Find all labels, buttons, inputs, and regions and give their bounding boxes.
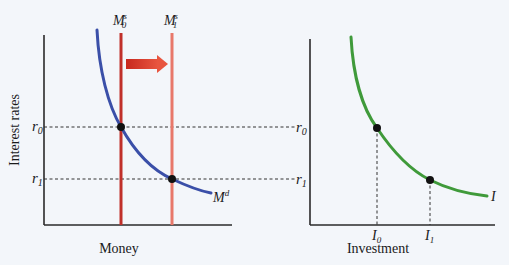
x-axis-label-money: Money bbox=[99, 241, 139, 256]
diagram-canvas: Interest rates Money r0 r1 Ms0 Ms1 Md r0… bbox=[0, 0, 509, 265]
r0-label-right: r0 bbox=[296, 119, 307, 137]
investment-panel: r0 r1 I0 I1 Investment I bbox=[296, 37, 497, 256]
money-supply-1-label: Ms1 bbox=[163, 12, 178, 30]
money-demand-curve bbox=[97, 30, 211, 193]
money-demand-label: Md bbox=[212, 188, 230, 205]
equilibrium-point-r1 bbox=[168, 175, 176, 183]
y-axis-label: Interest rates bbox=[7, 94, 22, 166]
r0-label-left: r0 bbox=[32, 118, 43, 136]
money-supply-0-label: Ms0 bbox=[112, 12, 127, 30]
investment-curve-label: I bbox=[490, 189, 497, 204]
investment-point-i0 bbox=[373, 124, 381, 132]
r1-label-right: r1 bbox=[296, 171, 307, 189]
shift-right-arrow-icon bbox=[126, 55, 168, 73]
money-market-panel: Interest rates Money r0 r1 Ms0 Ms1 Md bbox=[7, 12, 296, 256]
i1-label: I1 bbox=[424, 228, 434, 245]
r1-label-left: r1 bbox=[32, 170, 43, 188]
investment-demand-curve bbox=[351, 37, 487, 196]
equilibrium-point-r0 bbox=[117, 123, 125, 131]
x-axis-label-investment: Investment bbox=[347, 241, 409, 256]
investment-point-i1 bbox=[426, 176, 434, 184]
